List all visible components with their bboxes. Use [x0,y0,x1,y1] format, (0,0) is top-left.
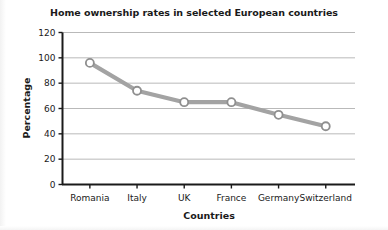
x-axis-tick-label: Italy [127,193,147,203]
y-axis-tick-label: 80 [44,78,56,88]
x-axis-tick-label: Germany [258,193,300,203]
y-axis-title: Percentage [21,77,32,138]
data-point-marker [227,98,235,106]
x-axis-tick-label: Switzerland [300,193,353,203]
y-axis-tick-label: 100 [38,53,55,63]
x-axis-tick-label: UK [178,193,192,203]
y-axis-tick-label: 0 [50,180,56,190]
data-point-marker [180,98,188,106]
line-chart-plot: 020406080100120 RomaniaItalyUKFranceGerm… [0,0,388,230]
data-point-marker [86,59,94,67]
x-axis-tick-label: France [216,193,246,203]
y-axis-tick-label: 120 [38,28,55,38]
y-axis-tick-label: 40 [44,129,56,139]
x-axis-tick-label: Romania [70,193,109,203]
y-axis-tick-label: 60 [44,104,56,114]
data-point-marker [133,87,141,95]
y-axis-tick-labels: 020406080100120 [38,28,55,190]
data-point-marker [275,111,283,119]
chart-figure: Home ownership rates in selected Europea… [0,0,388,230]
data-series-line [90,63,326,126]
y-axis-tick-label: 20 [44,154,56,164]
x-axis-title: Countries [183,210,235,221]
x-axis-tick-labels: RomaniaItalyUKFranceGermanySwitzerland [70,193,352,203]
data-point-marker [322,122,330,130]
gridlines-group [63,33,356,160]
